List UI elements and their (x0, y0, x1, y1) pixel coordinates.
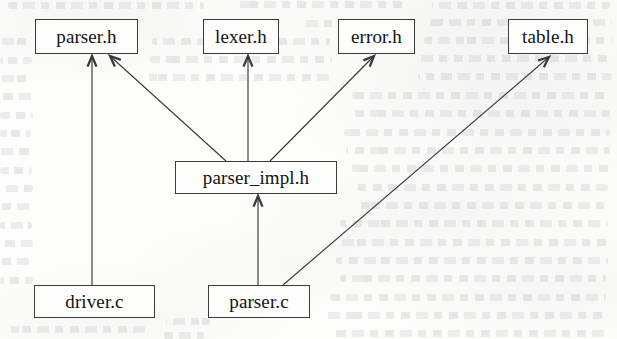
scanned-page: parser.hlexer.herror.htable.hparser_impl… (0, 0, 617, 339)
graph-node-label: error.h (351, 27, 402, 46)
graph-node-label: parser.h (56, 27, 116, 46)
graph-edge (244, 56, 253, 161)
graph-node-parser-h: parser.h (35, 19, 138, 54)
edge-line (110, 56, 226, 161)
graph-edge (88, 56, 97, 285)
graph-node-error-h: error.h (338, 19, 415, 54)
graph-node-parser-impl-h: parser_impl.h (175, 161, 337, 194)
graph-edge (254, 196, 263, 285)
graph-node-table-h: table.h (508, 19, 588, 54)
graph-node-label: table.h (522, 27, 574, 46)
graph-node-parser-c: parser.c (208, 285, 310, 318)
graph-node-driver-c: driver.c (34, 285, 155, 318)
graph-edge (110, 56, 226, 161)
graph-node-label: driver.c (65, 292, 123, 311)
edge-line (270, 56, 374, 161)
graph-node-label: lexer.h (215, 27, 267, 46)
graph-node-label: parser.c (229, 292, 288, 311)
graph-node-label: parser_impl.h (203, 168, 309, 187)
graph-edge (270, 56, 374, 161)
graph-node-lexer-h: lexer.h (203, 19, 279, 54)
